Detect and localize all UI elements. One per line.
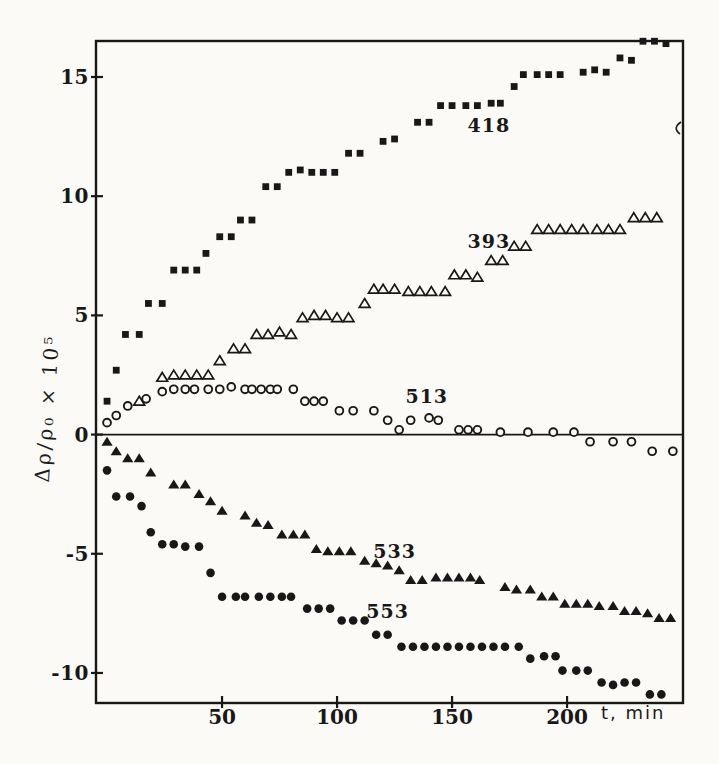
data-point-513 xyxy=(248,385,256,393)
data-point-513 xyxy=(158,388,166,396)
data-point-393 xyxy=(449,270,460,279)
data-point-533 xyxy=(642,608,653,617)
data-point-533 xyxy=(465,573,476,582)
data-point-553 xyxy=(526,654,535,663)
data-point-513 xyxy=(310,397,318,405)
data-point-418 xyxy=(497,100,504,107)
data-point-533 xyxy=(442,573,453,582)
data-point-553 xyxy=(278,592,287,601)
series-label-513: 513 xyxy=(405,385,448,407)
data-point-533 xyxy=(430,573,441,582)
data-point-418 xyxy=(159,300,166,307)
data-point-393 xyxy=(497,256,508,265)
data-point-513 xyxy=(216,385,224,393)
data-point-418 xyxy=(136,331,143,338)
data-point-533 xyxy=(511,584,522,593)
data-point-393 xyxy=(509,241,520,250)
data-point-553 xyxy=(397,642,406,651)
data-point-393 xyxy=(168,370,179,379)
data-point-393 xyxy=(343,313,354,322)
data-point-513 xyxy=(181,385,189,393)
data-point-393 xyxy=(263,330,274,339)
data-point-533 xyxy=(168,480,179,489)
data-point-533 xyxy=(548,592,559,601)
data-point-418 xyxy=(663,40,670,47)
data-point-553 xyxy=(609,681,618,690)
data-point-513 xyxy=(170,385,178,393)
data-point-393 xyxy=(286,330,297,339)
data-point-418 xyxy=(285,169,292,176)
data-point-393 xyxy=(332,313,343,322)
data-point-418 xyxy=(628,57,635,64)
data-point-553 xyxy=(620,678,629,687)
data-point-553 xyxy=(206,569,215,578)
data-point-393 xyxy=(592,225,603,234)
data-point-393 xyxy=(555,225,566,234)
data-point-533 xyxy=(630,606,641,615)
data-point-393 xyxy=(651,213,662,222)
data-point-533 xyxy=(101,437,112,446)
data-point-533 xyxy=(417,575,428,584)
data-point-553 xyxy=(137,502,146,511)
data-point-553 xyxy=(583,666,592,675)
data-point-533 xyxy=(359,556,370,565)
data-point-418 xyxy=(297,167,304,174)
data-point-393 xyxy=(228,344,239,353)
data-point-418 xyxy=(345,150,352,157)
data-point-553 xyxy=(597,678,606,687)
series-label-533: 533 xyxy=(373,540,416,562)
series-label-393: 393 xyxy=(468,230,511,252)
data-point-533 xyxy=(311,544,322,553)
data-point-553 xyxy=(146,528,155,537)
data-point-418 xyxy=(474,102,481,109)
data-point-553 xyxy=(420,642,429,651)
data-point-533 xyxy=(594,601,605,610)
data-point-533 xyxy=(582,599,593,608)
data-point-533 xyxy=(134,453,145,462)
data-point-513 xyxy=(191,385,199,393)
data-point-418 xyxy=(545,71,552,78)
data-point-513 xyxy=(349,407,357,415)
data-point-513 xyxy=(434,416,442,424)
data-point-513 xyxy=(289,385,297,393)
data-point-533 xyxy=(288,530,299,539)
data-point-553 xyxy=(241,592,250,601)
data-point-418 xyxy=(488,100,495,107)
data-point-533 xyxy=(262,520,273,529)
data-point-393 xyxy=(578,225,589,234)
data-point-553 xyxy=(314,604,323,613)
data-point-553 xyxy=(372,631,381,640)
data-point-553 xyxy=(349,616,358,625)
data-point-553 xyxy=(303,604,312,613)
data-point-533 xyxy=(205,496,216,505)
data-point-393 xyxy=(251,330,262,339)
data-point-553 xyxy=(287,592,296,601)
data-point-418 xyxy=(591,66,598,73)
data-point-418 xyxy=(640,38,647,45)
data-point-393 xyxy=(320,310,331,319)
data-point-418 xyxy=(534,71,541,78)
data-point-393 xyxy=(414,287,425,296)
data-point-418 xyxy=(462,102,469,109)
data-point-553 xyxy=(432,642,441,651)
data-point-553 xyxy=(103,466,112,475)
data-point-418 xyxy=(145,300,152,307)
data-point-513 xyxy=(524,428,532,436)
data-point-418 xyxy=(320,169,327,176)
data-point-553 xyxy=(632,678,641,687)
data-point-533 xyxy=(276,530,287,539)
x-axis-label: t, min xyxy=(601,702,719,723)
data-point-533 xyxy=(180,480,191,489)
data-point-418 xyxy=(380,138,387,145)
data-point-418 xyxy=(357,150,364,157)
data-point-533 xyxy=(394,565,405,574)
data-point-513 xyxy=(370,407,378,415)
data-point-513 xyxy=(124,402,132,410)
data-point-513 xyxy=(648,447,656,455)
data-point-393 xyxy=(426,287,437,296)
data-point-418 xyxy=(617,55,624,62)
data-point-553 xyxy=(646,690,655,699)
data-point-553 xyxy=(455,642,464,651)
data-point-513 xyxy=(273,385,281,393)
data-point-393 xyxy=(240,344,251,353)
